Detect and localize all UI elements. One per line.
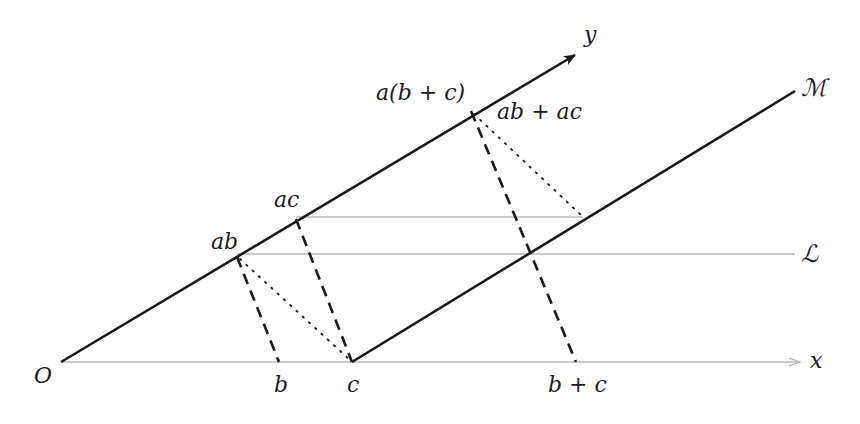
distributive-law-diagram: O b c b + c x y ab ac a(b + c) ab + ac ℳ…	[0, 0, 860, 424]
label-ac: ac	[274, 187, 299, 212]
label-a-b-plus-c: a(b + c)	[376, 80, 465, 105]
line-M	[352, 91, 795, 362]
dotted-ab-to-c	[240, 259, 350, 360]
label-L: ℒ	[801, 240, 819, 268]
label-y: y	[583, 22, 597, 47]
label-ab: ab	[211, 229, 238, 254]
dashed-abc-to-bc	[471, 111, 576, 362]
label-b-plus-c: b + c	[548, 372, 607, 397]
label-ab-plus-ac: ab + ac	[497, 99, 582, 124]
label-M: ℳ	[801, 74, 830, 102]
label-O: O	[34, 363, 52, 388]
label-c: c	[347, 372, 359, 397]
label-x: x	[810, 348, 823, 373]
dashed-ab-to-b	[237, 257, 279, 362]
dotted-abc-to-M	[474, 114, 582, 216]
dashed-ac-to-c	[296, 219, 352, 362]
label-b: b	[274, 372, 288, 397]
